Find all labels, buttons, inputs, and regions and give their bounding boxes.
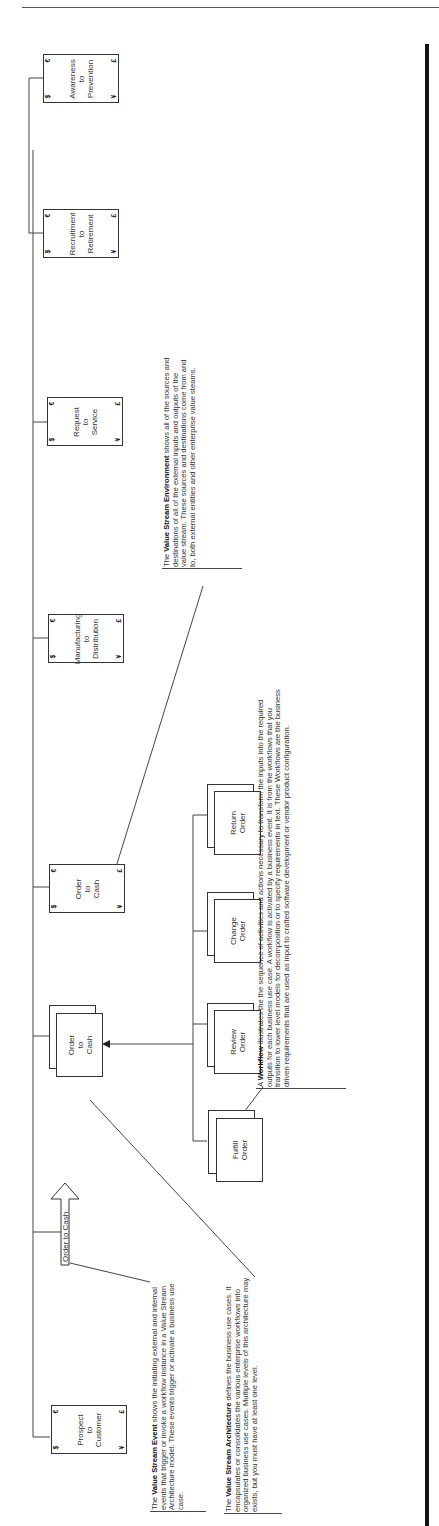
pound-icon: £ (116, 619, 123, 623)
business-use-case-order-to-cash[interactable]: Order to Cash (56, 1013, 103, 1077)
euro-icon: € (52, 1410, 59, 1414)
euro-icon: € (48, 402, 55, 406)
pound-icon: £ (117, 869, 124, 873)
dollar-icon: $ (52, 1446, 59, 1450)
dollar-icon: $ (44, 250, 51, 254)
workflow-label: Change Order (229, 917, 247, 945)
yen-icon: ¥ (119, 1446, 126, 1450)
event-note-bracket (150, 1511, 206, 1513)
workflow-note: A Workflow illustrates the the sequence … (257, 677, 291, 1087)
pound-icon: £ (111, 59, 118, 63)
value-stream-prospect-to-customer[interactable]: € $ £ ¥ Prospect to Customer (51, 1405, 127, 1454)
pound-icon: £ (115, 402, 122, 406)
value-stream-order-to-cash[interactable]: € $ £ ¥ Order to Cash (49, 864, 125, 913)
workflow-note-bracket (256, 1088, 346, 1090)
value-stream-label: Prospect to Customer (76, 1412, 103, 1447)
page-edge-bar (425, 44, 429, 1526)
value-stream-recruitment-to-retirement[interactable]: € $ £ ¥ Recruitment to Retirement (43, 209, 119, 258)
euro-icon: € (44, 214, 51, 218)
value-stream-label: Request to Service (72, 407, 99, 437)
top-rule (22, 7, 439, 8)
value-stream-manufacturing-to-distribution[interactable]: € $ £ ¥ Manufacturing to Distribution (48, 614, 124, 663)
architecture-note: The Value Stream Architecture defines th… (225, 1272, 259, 1512)
value-stream-label: Awareness to Prevention (68, 59, 95, 98)
value-stream-awareness-to-prevention[interactable]: € $ £ ¥ Awareness to Prevention (43, 54, 119, 103)
euro-icon: € (49, 619, 56, 623)
environment-note: The Value Stream Environment shows all o… (163, 357, 197, 567)
yen-icon: ¥ (117, 905, 124, 909)
workflow-label: Fulfill Order (231, 1140, 249, 1160)
value-stream-request-to-service[interactable]: € $ £ ¥ Request to Service (47, 397, 123, 446)
dollar-icon: $ (48, 438, 55, 442)
euro-icon: € (44, 59, 51, 63)
euro-icon: € (50, 869, 57, 873)
yen-icon: ¥ (111, 250, 118, 254)
yen-icon: ¥ (111, 95, 118, 99)
yen-icon: ¥ (115, 438, 122, 442)
dollar-icon: $ (44, 95, 51, 99)
event-note: The Value Stream Event shows the initiat… (151, 1275, 185, 1510)
dollar-icon: $ (49, 655, 56, 659)
architecture-note-bracket (224, 1513, 282, 1515)
workflow-review-order[interactable]: Review Order (214, 1010, 261, 1074)
pound-icon: £ (119, 1410, 126, 1414)
workflow-label: Review Order (229, 1029, 247, 1055)
environment-note-bracket (162, 568, 242, 570)
business-use-case-label: Order to Cash (66, 1035, 93, 1055)
pound-icon: £ (111, 214, 118, 218)
yen-icon: ¥ (116, 655, 123, 659)
dollar-icon: $ (50, 905, 57, 909)
value-stream-label: Order to Cash (74, 878, 101, 898)
workflow-return-order[interactable]: Return Order (214, 791, 261, 855)
workflow-label: Return Order (229, 811, 247, 835)
workflow-fulfill-order[interactable]: Fulfill Order (216, 1118, 263, 1182)
value-stream-label: Recruitment to Retirement (68, 212, 95, 255)
workflow-change-order[interactable]: Change Order (214, 899, 261, 963)
event-arrow-label: Order to Cash (61, 1212, 70, 1262)
value-stream-label: Manufacturing to Distribution (73, 613, 100, 664)
